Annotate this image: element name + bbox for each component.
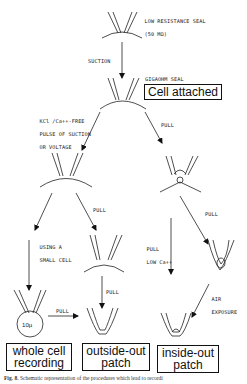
pipette-low-resistance-icon (102, 12, 142, 38)
label-line: EXPOSURE (211, 309, 237, 315)
cell-attached-box: Cell attached (144, 84, 222, 100)
label-line: KCl /Ca++-FREE (39, 118, 84, 124)
cell-size-label: 10µ (22, 322, 32, 328)
inside-out-patch-box: inside-out patch (157, 345, 219, 373)
patch-clamp-flow-diagram (0, 0, 247, 384)
low-resistance-seal-label: LOW RESISTANCE SEAL (50 MΩ) (138, 12, 206, 38)
pull-mid-left-label: PULL (93, 207, 106, 213)
outside-out-patch-box: outside-out patch (82, 343, 150, 371)
label-line: LOW Ca++ (146, 259, 172, 265)
pull-whole-to-outside-label: PULL (56, 308, 69, 314)
pull-right-mid-label: PULL (205, 211, 218, 217)
box-line: recording (7, 357, 71, 369)
label-line: USING A (39, 244, 62, 250)
pull-low-ca-label: PULL LOW Ca++ (140, 240, 172, 266)
pipette-inside-out-icon (161, 313, 191, 336)
pipette-vesicle-icon (208, 240, 234, 270)
arrow-pull-right (145, 112, 162, 143)
caption-text: Schematic representation of the procedur… (19, 375, 163, 381)
pull-right-top-label: PULL (161, 122, 174, 128)
box-line: patch (158, 359, 218, 371)
pipette-outside-out-icon (87, 308, 118, 334)
arrow-pull-right-mid (180, 196, 208, 244)
figure-caption: Fig. 8. Schematic representation of the … (4, 375, 247, 381)
box-line: patch (83, 357, 149, 369)
label-line: PULSE OF SUCTION (39, 131, 91, 137)
pipette-outside-out-forming-icon (84, 235, 124, 272)
pipette-vesicle-forming-icon (160, 156, 201, 192)
label-line: LOW RESISTANCE SEAL (144, 18, 205, 24)
pipette-whole-cell-icon (14, 290, 46, 337)
kcl-pulse-label: KCl /Ca++-FREE PULSE OF SUCTION OR VOLTA… (33, 112, 91, 150)
label-line: OR VOLTAGE (39, 144, 71, 150)
suction-label: SUCTION (88, 58, 111, 64)
small-cell-label: USING A SMALL CELL (33, 238, 72, 264)
whole-cell-recording-box: whole cell recording (6, 343, 72, 371)
label-line: (50 MΩ) (144, 31, 167, 37)
label-line: AIR (211, 296, 221, 302)
gigaohm-seal-label: GIGAOHM SEAL (145, 76, 184, 82)
pipette-ruptured-icon (40, 153, 92, 187)
caption-fig-number: Fig. 8. (4, 375, 19, 381)
arrow-down-left (35, 193, 52, 230)
cell-attached-label: Cell attached (148, 86, 218, 98)
label-line: PULL (146, 246, 159, 252)
pipette-gigaohm-icon (100, 78, 146, 109)
label-line: SMALL CELL (39, 257, 71, 263)
air-exposure-label: AIR EXPOSURE (205, 290, 237, 316)
pull-outside-out-label: PULL (106, 289, 119, 295)
